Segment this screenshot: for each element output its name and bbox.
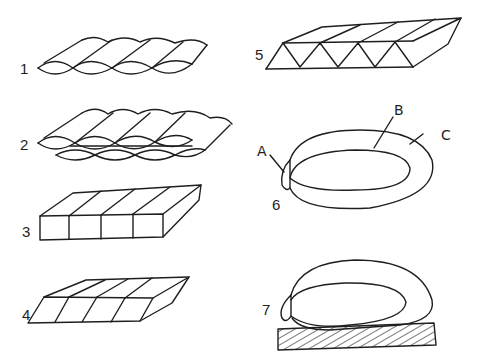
figure-6-label: 6 — [272, 196, 280, 213]
figure-6: 6 A B C — [257, 102, 451, 213]
hatched-base — [278, 323, 436, 350]
figure-5: 5 — [255, 18, 461, 69]
figure-1-label: 1 — [20, 60, 28, 77]
figure-7-label: 7 — [262, 301, 270, 318]
figure-5-label: 5 — [255, 46, 263, 63]
figure-7: 7 — [262, 260, 436, 350]
diagram-canvas: 1 2 3 4 — [0, 0, 483, 363]
figure-1: 1 — [20, 37, 207, 77]
callout-a: A — [257, 143, 267, 159]
figure-3: 3 — [22, 185, 201, 240]
callout-b: B — [394, 102, 404, 118]
figure-3-label: 3 — [22, 223, 30, 240]
figure-2-label: 2 — [20, 136, 28, 153]
callout-c: C — [441, 127, 451, 143]
figure-4: 4 — [22, 277, 189, 323]
figure-2: 2 — [20, 109, 232, 160]
